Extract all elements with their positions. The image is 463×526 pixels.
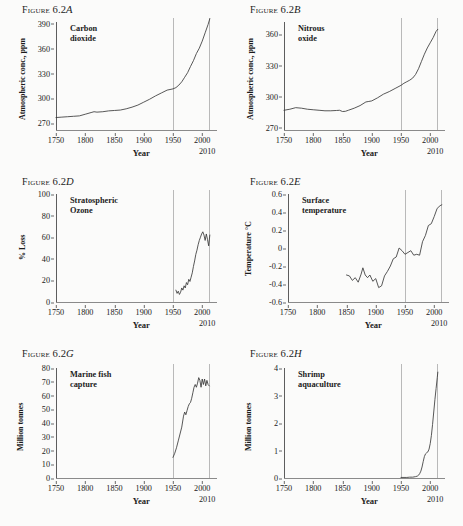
chart-svg (56, 194, 219, 304)
figure-label-G: Figure 6.2G (22, 348, 74, 359)
data-curve-A (56, 19, 210, 118)
x-tick-label: 1800 (77, 136, 93, 145)
x-tick-mark (56, 481, 57, 484)
x-tick-label: 1950 (397, 308, 413, 317)
y-tick-mark (279, 128, 282, 129)
x-tick-mark (317, 305, 318, 308)
x-tick-mark (372, 481, 373, 484)
x-tick-label: 1900 (136, 484, 152, 493)
x-tick-label: 2000 (422, 136, 438, 145)
x-tick-mark (144, 305, 145, 308)
x-tick-mark (173, 481, 174, 484)
x-tick-mark (56, 133, 57, 136)
x-tick-label: 1850 (106, 308, 122, 317)
y-tick-label: 300 (38, 94, 50, 103)
panel-G: Figure 6.2G 0102030405060708017501800185… (0, 344, 232, 526)
y-tick-label: 330 (266, 61, 278, 70)
figure-number: 6.2 (280, 176, 294, 187)
y-tick-label: 360 (266, 30, 278, 39)
y-tick-mark (51, 409, 54, 410)
figure-number: 6.2 (52, 4, 66, 15)
y-tick-mark (283, 302, 286, 303)
x-tick-label: 2000 (426, 308, 442, 317)
x-tick-mark (114, 481, 115, 484)
figure-number: 6.2 (52, 176, 66, 187)
x-tick-mark (288, 305, 289, 308)
y-tick-mark (51, 194, 54, 195)
x-tick-label: 1800 (305, 484, 321, 493)
plot-area-D: 0204060801001750180018501900195020002010… (56, 194, 211, 302)
y-tick-mark (51, 259, 54, 260)
y-tick-mark (51, 368, 54, 369)
plot-area-H: 012341750180018501900195020002010YearMil… (284, 368, 439, 478)
x-tick-label: 2000 (194, 136, 210, 145)
x-axis-label: Year (133, 320, 150, 330)
y-tick-mark (51, 437, 54, 438)
y-tick-mark (283, 230, 286, 231)
figure-label-E: Figure 6.2E (250, 176, 301, 187)
y-tick-label: 0.2 (272, 226, 282, 235)
x-tick-label: 1950 (393, 136, 409, 145)
y-tick-label: 0.4 (272, 208, 282, 217)
x-tick-label: 2000 (422, 484, 438, 493)
x-tick-label: 1750 (280, 308, 296, 317)
y-tick-label: 2 (274, 419, 278, 428)
x-tick-mark (313, 133, 314, 136)
figure-word: Figure (250, 348, 278, 359)
y-tick-label: 0 (46, 474, 50, 483)
y-tick-mark (51, 451, 54, 452)
y-tick-mark (279, 34, 282, 35)
y-tick-label: 70 (42, 377, 50, 386)
y-tick-label: 0 (46, 298, 50, 307)
data-curve-D (176, 232, 210, 295)
y-tick-mark (279, 368, 282, 369)
y-tick-mark (51, 123, 54, 124)
x-axis-end-label: 2010 (427, 147, 443, 156)
y-tick-mark (51, 396, 54, 397)
x-tick-mark (284, 133, 285, 136)
y-tick-mark (283, 284, 286, 285)
figure-number: 6.2 (280, 4, 294, 15)
x-tick-mark (85, 133, 86, 136)
x-tick-label: 1950 (393, 484, 409, 493)
x-tick-mark (202, 133, 203, 136)
chart-svg (56, 22, 219, 132)
y-tick-label: -0.2 (269, 262, 282, 271)
x-tick-label: 2000 (194, 484, 210, 493)
y-tick-label: 360 (38, 44, 50, 53)
panel-E: Figure 6.2E -0.6-0.4-0.200.20.40.6175018… (232, 172, 463, 344)
x-tick-mark (405, 305, 406, 308)
panel-D: Figure 6.2D 0204060801001750180018501900… (0, 172, 232, 344)
y-tick-label: 40 (42, 419, 50, 428)
x-axis-label: Year (361, 148, 378, 158)
x-axis-end-label: 2010 (199, 319, 215, 328)
x-tick-mark (434, 305, 435, 308)
x-tick-label: 1800 (309, 308, 325, 317)
x-tick-label: 1750 (276, 136, 292, 145)
y-tick-label: 80 (42, 211, 50, 220)
y-tick-label: -0.6 (269, 298, 282, 307)
x-tick-label: 1750 (48, 136, 64, 145)
x-tick-mark (56, 305, 57, 308)
figure-word: Figure (22, 176, 50, 187)
y-tick-label: 0 (278, 244, 282, 253)
y-tick-label: 30 (42, 432, 50, 441)
y-tick-label: 20 (42, 276, 50, 285)
y-tick-label: 0 (274, 474, 278, 483)
plot-area-E: -0.6-0.4-0.200.20.40.6175018001850190019… (288, 194, 443, 302)
figure-word: Figure (22, 348, 50, 359)
figure-word: Figure (250, 176, 278, 187)
y-tick-mark (279, 423, 282, 424)
figure-label-B: Figure 6.2B (250, 4, 301, 15)
x-tick-mark (114, 133, 115, 136)
x-axis-end-label: 2010 (431, 319, 447, 328)
x-axis-label: Year (133, 496, 150, 506)
x-tick-label: 1850 (334, 484, 350, 493)
y-tick-mark (51, 423, 54, 424)
y-tick-label: 330 (38, 69, 50, 78)
chart-svg (56, 368, 219, 480)
data-curve-E (346, 205, 441, 288)
x-tick-mark (346, 305, 347, 308)
x-tick-label: 1800 (305, 136, 321, 145)
figure-label-A: Figure 6.2A (22, 4, 73, 15)
